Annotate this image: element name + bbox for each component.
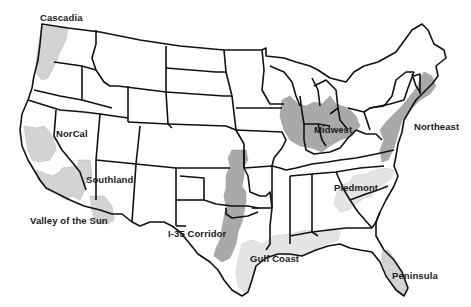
label-gulf-coast: Gulf Coast <box>250 253 299 264</box>
label-cascadia: Cascadia <box>40 12 83 23</box>
label-midwest: Midwest <box>314 124 352 135</box>
label-valley-of-the-sun: Valley of the Sun <box>30 215 108 226</box>
region-norcal <box>24 126 56 162</box>
region-northeast <box>380 72 436 162</box>
label-piedmont: Piedmont <box>334 182 378 193</box>
label-peninsula: Peninsula <box>392 270 438 281</box>
us-map-graphic <box>0 0 471 307</box>
region-southland <box>36 160 92 200</box>
label-southland: Southland <box>86 174 133 185</box>
label-northeast: Northeast <box>414 121 459 132</box>
megaregions-map: Cascadia NorCal Southland Valley of the … <box>0 0 471 307</box>
label-norcal: NorCal <box>56 128 88 139</box>
label-i35-corridor: I-35 Corridor <box>168 228 226 239</box>
